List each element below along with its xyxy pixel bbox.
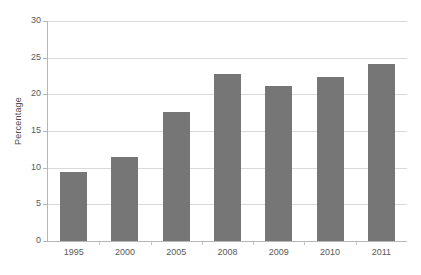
x-axis-tick-mark [202,241,203,245]
bar [214,74,241,241]
y-axis-tick-label: 25 [3,53,41,62]
x-axis-tick-label: 2011 [356,247,407,258]
x-axis-tick-mark [151,241,152,245]
x-axis-tick-mark [356,241,357,245]
x-axis-tick-mark [253,241,254,245]
y-axis-tick-label: 15 [3,126,41,135]
x-axis-tick-label: 2009 [253,247,304,258]
x-axis-tick-mark [99,241,100,245]
x-axis-tick-label: 2000 [99,247,150,258]
x-axis-tick-label: 2010 [304,247,355,258]
plot-area [48,21,407,241]
y-axis-tick-label: 20 [3,89,41,98]
y-axis-tick-mark [43,241,48,242]
bar-chart: Percentage 051015202530 1995200020052008… [0,0,421,275]
bar [60,172,87,241]
bar [368,64,395,241]
y-axis-tick-mark [43,58,48,59]
gridline [48,21,407,22]
y-axis-tick-group: 051015202530 [0,0,41,275]
y-axis-tick-label: 10 [3,163,41,172]
y-axis-tick-mark [43,131,48,132]
y-axis-tick-mark [43,204,48,205]
y-axis-tick-label: 30 [3,16,41,25]
gridline [48,58,407,59]
x-axis-tick-group: 1995200020052008200920102011 [48,247,407,263]
x-axis-tick-label: 2008 [202,247,253,258]
x-axis-tick-label: 2005 [151,247,202,258]
bar [265,86,292,241]
bar [317,77,344,241]
bar [111,157,138,241]
bar [163,112,190,241]
x-axis-tick-label: 1995 [48,247,99,258]
y-axis-tick-mark [43,168,48,169]
y-axis-tick-mark [43,21,48,22]
x-axis-tick-mark [304,241,305,245]
y-axis-tick-label: 0 [3,236,41,245]
y-axis-tick-label: 5 [3,199,41,208]
y-axis-tick-mark [43,94,48,95]
